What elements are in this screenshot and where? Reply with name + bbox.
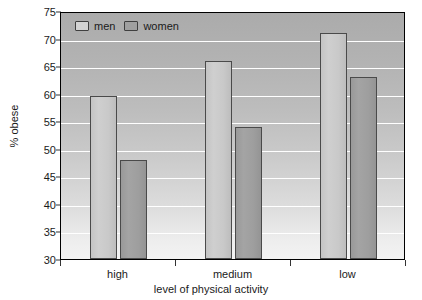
- y-axis-ticks: 30354045505560657075: [26, 0, 56, 300]
- bar-women-medium: [235, 127, 262, 259]
- x-tick-label-low: low: [308, 268, 388, 280]
- x-tick-mark: [175, 260, 176, 266]
- y-tick-label: 45: [30, 171, 56, 183]
- bar-chart: % obese 30354045505560657075 men women h…: [0, 0, 422, 300]
- bar-women-high: [120, 160, 147, 259]
- y-tick-label: 50: [30, 144, 56, 156]
- gridline: [61, 41, 404, 42]
- y-tick-label: 60: [30, 89, 56, 101]
- x-tick-label-medium: medium: [193, 268, 273, 280]
- legend-label-women: women: [143, 20, 178, 32]
- legend-swatch-women-icon: [124, 21, 138, 31]
- y-tick-label: 55: [30, 116, 56, 128]
- x-tick-mark: [405, 260, 406, 266]
- x-tick-mark: [60, 260, 61, 266]
- y-axis-title: % obese: [8, 86, 20, 166]
- legend-item-men: men: [75, 20, 115, 32]
- bar-men-low: [320, 33, 347, 259]
- legend-label-men: men: [94, 20, 115, 32]
- legend-item-women: women: [124, 20, 178, 32]
- plot-area: men women: [60, 12, 405, 260]
- legend-swatch-men-icon: [75, 21, 89, 31]
- x-axis-title: level of physical activity: [0, 283, 422, 295]
- x-tick-mark: [290, 260, 291, 266]
- legend: men women: [70, 18, 184, 34]
- bar-men-medium: [205, 61, 232, 259]
- y-tick-label: 75: [30, 6, 56, 18]
- y-tick-label: 30: [30, 254, 56, 266]
- y-tick-label: 70: [30, 34, 56, 46]
- bar-men-high: [90, 96, 117, 259]
- y-tick-label: 65: [30, 61, 56, 73]
- x-tick-label-high: high: [78, 268, 158, 280]
- gridline: [61, 68, 404, 69]
- bar-women-low: [350, 77, 377, 259]
- y-tick-label: 40: [30, 199, 56, 211]
- y-tick-label: 35: [30, 226, 56, 238]
